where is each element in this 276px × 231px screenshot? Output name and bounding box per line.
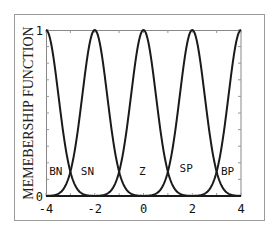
fuzzy-set-labels: BNSNZSPBP — [49, 162, 234, 178]
x-tick-labels: -4-2024 — [39, 202, 245, 216]
x-tick-label: -4 — [39, 202, 53, 216]
x-tick-label: 4 — [237, 202, 244, 216]
set-label-bp: BP — [221, 165, 235, 178]
set-label-sn: SN — [81, 165, 94, 178]
y-axis-label: MEMEBERSHIP FUNCTION — [21, 26, 36, 199]
set-label-bn: BN — [49, 165, 62, 178]
set-label-sp: SP — [180, 162, 194, 175]
y-tick-label: 1 — [36, 24, 43, 38]
set-label-z: Z — [139, 165, 146, 178]
x-tick-label: 0 — [140, 202, 147, 216]
y-tick-labels: 01 — [36, 24, 43, 204]
x-tick-label: -2 — [88, 202, 102, 216]
y-tick-label: 0 — [36, 190, 43, 204]
membership-function-chart: -4-2024 01 BNSNZSPBP MEMEBERSHIP FUNCTIO… — [0, 0, 276, 231]
x-tick-label: 2 — [189, 202, 196, 216]
